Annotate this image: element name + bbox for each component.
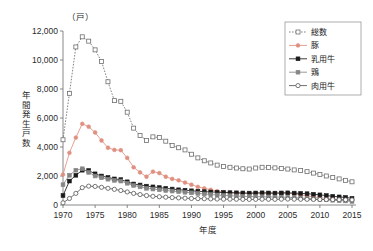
data-point-marker bbox=[202, 192, 206, 196]
data-point-marker bbox=[119, 99, 123, 103]
data-point-marker bbox=[67, 196, 71, 200]
data-point-marker bbox=[80, 186, 84, 190]
line-chart: 02,0004,0006,0008,00010,00012,0001970197… bbox=[0, 0, 373, 251]
data-point-marker bbox=[100, 139, 104, 143]
data-point-marker bbox=[157, 171, 161, 175]
data-point-marker bbox=[260, 165, 264, 169]
data-point-marker bbox=[93, 131, 97, 135]
x-tick-label: 2000 bbox=[246, 210, 265, 220]
data-point-marker bbox=[331, 175, 335, 179]
y-tick-label: 6,000 bbox=[37, 113, 59, 123]
legend-label: 肉用牛 bbox=[311, 81, 335, 91]
data-point-marker bbox=[209, 197, 213, 201]
data-point-marker bbox=[299, 192, 303, 196]
data-point-marker bbox=[324, 194, 328, 198]
y-axis-title-char: 数 bbox=[22, 138, 31, 148]
data-point-marker bbox=[87, 125, 91, 129]
data-point-marker bbox=[61, 201, 65, 205]
data-point-marker bbox=[177, 146, 181, 150]
data-point-marker bbox=[145, 175, 149, 179]
data-point-marker bbox=[151, 187, 155, 191]
data-point-marker bbox=[196, 192, 200, 196]
data-point-marker bbox=[170, 196, 174, 200]
data-point-marker bbox=[61, 173, 65, 177]
data-point-marker bbox=[183, 190, 187, 194]
data-point-marker bbox=[132, 184, 136, 188]
data-point-marker bbox=[112, 187, 116, 191]
data-point-marker bbox=[215, 193, 219, 197]
x-tick-label: 2015 bbox=[343, 210, 362, 220]
data-point-marker bbox=[350, 180, 354, 184]
data-point-marker bbox=[61, 194, 65, 198]
data-point-marker bbox=[80, 35, 84, 39]
data-point-marker bbox=[177, 178, 181, 182]
data-point-marker bbox=[93, 184, 97, 188]
data-point-marker bbox=[106, 146, 110, 150]
data-point-marker bbox=[247, 167, 251, 171]
x-tick-label: 2005 bbox=[278, 210, 297, 220]
data-point-marker bbox=[305, 192, 309, 196]
y-axis-title-char: 戸 bbox=[22, 128, 31, 138]
data-point-marker bbox=[112, 148, 116, 152]
y-tick-label: 2,000 bbox=[37, 171, 59, 181]
data-point-marker bbox=[87, 184, 91, 188]
data-point-marker bbox=[119, 188, 123, 192]
data-point-marker bbox=[177, 190, 181, 194]
data-point-marker bbox=[296, 30, 300, 34]
data-point-marker bbox=[292, 191, 296, 195]
data-point-marker bbox=[286, 191, 290, 195]
data-point-marker bbox=[132, 165, 136, 169]
y-axis-title-char: 生 bbox=[22, 119, 31, 129]
data-point-marker bbox=[234, 197, 238, 201]
data-point-marker bbox=[190, 183, 194, 187]
data-point-marker bbox=[318, 173, 322, 177]
legend-layer[interactable]: 総数豚乳用牛鶏肉用牛 bbox=[285, 22, 361, 95]
data-point-marker bbox=[138, 185, 142, 189]
data-point-marker bbox=[279, 197, 283, 201]
data-point-marker bbox=[74, 168, 78, 172]
data-point-marker bbox=[189, 152, 193, 156]
data-point-marker bbox=[144, 138, 148, 142]
data-point-marker bbox=[202, 159, 206, 163]
data-point-marker bbox=[183, 148, 187, 152]
data-point-marker bbox=[343, 198, 347, 202]
data-point-marker bbox=[344, 178, 348, 182]
data-point-marker bbox=[260, 191, 264, 195]
data-point-marker bbox=[106, 186, 110, 190]
data-point-marker bbox=[100, 59, 104, 63]
legend-label: 豚 bbox=[311, 41, 319, 50]
data-point-marker bbox=[68, 179, 72, 183]
data-point-marker bbox=[61, 138, 65, 142]
data-point-marker bbox=[157, 136, 161, 140]
data-point-marker bbox=[221, 197, 225, 201]
y-axis-title-char: 間 bbox=[22, 100, 31, 110]
chart-container: 02,0004,0006,0008,00010,00012,0001970197… bbox=[0, 0, 373, 251]
data-point-marker bbox=[106, 80, 110, 84]
data-point-marker bbox=[183, 196, 187, 200]
data-point-marker bbox=[305, 197, 309, 201]
data-point-marker bbox=[68, 151, 72, 155]
y-axis-unit-label: （戸） bbox=[67, 12, 94, 22]
data-point-marker bbox=[267, 166, 271, 170]
data-point-marker bbox=[125, 190, 129, 194]
data-point-marker bbox=[164, 189, 168, 193]
data-point-marker bbox=[324, 174, 328, 178]
data-point-marker bbox=[189, 196, 193, 200]
data-point-marker bbox=[190, 191, 194, 195]
data-point-marker bbox=[292, 197, 296, 201]
y-axis-title-char: 発 bbox=[22, 109, 31, 119]
data-point-marker bbox=[273, 166, 277, 170]
data-point-marker bbox=[67, 91, 71, 95]
data-point-marker bbox=[350, 198, 354, 202]
data-point-marker bbox=[286, 197, 290, 201]
x-axis-title: 年度 bbox=[199, 225, 217, 235]
legend-label: 鶏 bbox=[311, 67, 319, 77]
data-point-marker bbox=[318, 193, 322, 197]
data-point-marker bbox=[209, 193, 213, 197]
data-point-marker bbox=[74, 191, 78, 195]
data-point-marker bbox=[296, 70, 300, 74]
x-tick-label: 2010 bbox=[310, 210, 329, 220]
x-tick-label: 1985 bbox=[150, 210, 169, 220]
y-tick-label: 12,000 bbox=[32, 26, 58, 36]
data-point-marker bbox=[209, 161, 213, 165]
